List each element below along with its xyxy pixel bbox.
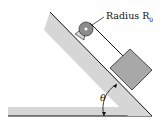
- rope: [90, 23, 124, 57]
- radius-leader-line: [92, 17, 104, 25]
- ground-surface: [8, 107, 128, 116]
- angle-label: θ: [100, 92, 106, 103]
- incline-diagram: Radius R0 θ: [0, 0, 165, 121]
- pulley-axle: [85, 28, 88, 31]
- radius-label: Radius R0: [106, 10, 153, 23]
